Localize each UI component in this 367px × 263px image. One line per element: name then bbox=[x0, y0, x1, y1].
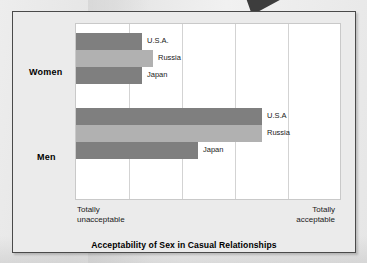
bar-label-men-usa: U.S.A bbox=[267, 112, 287, 120]
gridline-4 bbox=[288, 24, 289, 199]
figure-frame: U.S.A. Russia Japan U.S.A Russia Japan W… bbox=[12, 11, 356, 253]
bar-label-men-japan: Japan bbox=[203, 146, 223, 154]
bar-label-men-russia: Russia bbox=[267, 129, 290, 137]
bar-women-usa bbox=[76, 33, 142, 50]
bar-men-russia bbox=[76, 125, 262, 142]
axis-label-acceptable-line2: acceptable bbox=[296, 215, 335, 225]
bar-men-japan bbox=[76, 142, 198, 159]
bar-label-women-usa: U.S.A. bbox=[147, 37, 169, 45]
bar-label-women-russia: Russia bbox=[158, 54, 181, 62]
axis-label-acceptable-line1: Totally bbox=[296, 205, 335, 215]
chart-plot-area: U.S.A. Russia Japan U.S.A Russia Japan bbox=[75, 23, 341, 200]
group-label-women: Women bbox=[29, 67, 62, 77]
axis-label-acceptable: Totally acceptable bbox=[296, 205, 335, 225]
axis-label-unacceptable-line2: unacceptable bbox=[77, 215, 125, 225]
axis-label-unacceptable: Totally unacceptable bbox=[77, 205, 125, 225]
chart-title: Acceptability of Sex in Casual Relations… bbox=[13, 240, 355, 250]
axis-label-unacceptable-line1: Totally bbox=[77, 205, 125, 215]
bar-men-usa bbox=[76, 108, 262, 125]
bar-women-japan bbox=[76, 67, 142, 84]
group-label-men: Men bbox=[37, 152, 56, 162]
bar-women-russia bbox=[76, 50, 153, 67]
bar-label-women-japan: Japan bbox=[147, 71, 167, 79]
